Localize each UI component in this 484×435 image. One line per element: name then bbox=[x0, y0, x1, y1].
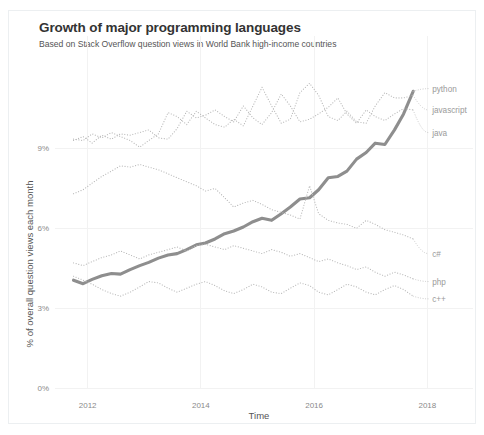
series-label-leaders bbox=[413, 89, 428, 299]
x-tick-2012: 2012 bbox=[79, 401, 97, 410]
series-label-c++: c++ bbox=[432, 295, 446, 304]
line-chart-plot: pythonjavascriptjavac#phpc++ 0%3%6%9% 20… bbox=[9, 11, 477, 425]
series-label-c#: c# bbox=[432, 250, 441, 259]
y-axis-tick-labels: 0%3%6%9% bbox=[37, 144, 49, 393]
y-tick-0%: 0% bbox=[37, 384, 49, 393]
x-tick-2018: 2018 bbox=[418, 401, 436, 410]
y-axis-title: % of overall question views each month bbox=[24, 181, 35, 348]
x-tick-2016: 2016 bbox=[305, 401, 323, 410]
series-line-java bbox=[73, 94, 413, 143]
y-tick-3%: 3% bbox=[37, 304, 49, 313]
y-tick-9%: 9% bbox=[37, 144, 49, 153]
leader-line-python bbox=[413, 89, 428, 92]
chart-card: Growth of major programming languages Ba… bbox=[8, 10, 476, 424]
vertical-gridlines bbox=[88, 36, 428, 388]
leader-line-java bbox=[413, 110, 428, 133]
series-label-python: python bbox=[432, 85, 457, 94]
leader-line-javascript bbox=[413, 95, 428, 110]
horizontal-gridlines bbox=[55, 148, 473, 388]
leader-line-php bbox=[413, 279, 428, 282]
x-axis-title: Time bbox=[249, 410, 270, 421]
x-tick-2014: 2014 bbox=[192, 401, 210, 410]
series-labels: pythonjavascriptjavac#phpc++ bbox=[431, 85, 467, 304]
series-label-java: java bbox=[431, 129, 447, 138]
series-line-python bbox=[73, 91, 413, 283]
leader-line-c# bbox=[413, 239, 428, 254]
leader-line-c++ bbox=[413, 296, 428, 299]
x-axis-tick-labels: 2012201420162018 bbox=[79, 401, 437, 410]
series-line-c++ bbox=[73, 276, 413, 296]
series-label-php: php bbox=[432, 278, 446, 287]
y-tick-6%: 6% bbox=[37, 224, 49, 233]
series-lines bbox=[73, 83, 413, 296]
series-label-javascript: javascript bbox=[431, 106, 467, 115]
